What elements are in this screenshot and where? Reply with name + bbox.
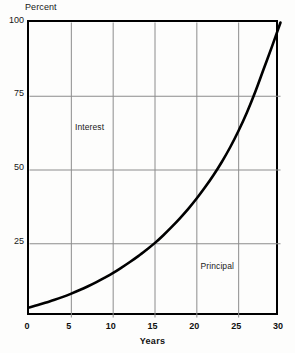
x-tick-label: 0 — [15, 322, 39, 331]
x-tick-label: 20 — [182, 322, 206, 331]
y-axis-title: Percent — [25, 2, 57, 12]
y-tick-label: 75 — [0, 89, 24, 98]
interest-region-label: Interest — [75, 122, 104, 132]
plot-inner — [29, 22, 276, 313]
x-axis-title-text: Years — [140, 336, 166, 346]
x-axis-tick-labels: 051015202530 — [0, 322, 295, 336]
gridlines-group — [29, 22, 280, 317]
y-tick-label: 25 — [0, 237, 24, 246]
y-tick-label: 100 — [0, 16, 24, 25]
x-tick-label: 30 — [266, 322, 290, 331]
principal-region-label: Principal — [201, 261, 235, 271]
chart-figure: Percent 255075100 Interest Principal 051… — [0, 0, 295, 353]
y-tick-label: 50 — [0, 163, 24, 172]
plot-area: Interest Principal — [27, 20, 278, 315]
x-tick-label: 10 — [99, 322, 123, 331]
x-tick-label: 5 — [57, 322, 81, 331]
y-axis-tick-labels: 255075100 — [0, 0, 24, 353]
x-tick-label: 25 — [224, 322, 248, 331]
x-tick-label: 15 — [141, 322, 165, 331]
x-axis-title: Years — [0, 336, 295, 346]
plot-curve-svg — [27, 20, 283, 320]
